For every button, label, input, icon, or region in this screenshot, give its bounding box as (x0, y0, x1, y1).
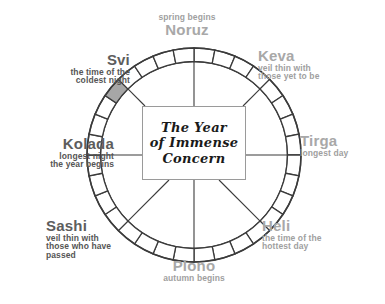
ring-cell (194, 48, 215, 63)
marker-sashi: Sashi veil thin with those who have pass… (46, 218, 156, 260)
spoke-line (243, 89, 260, 106)
marker-sashi-name: Sashi (46, 218, 156, 234)
marker-tirga: Tirga longest day (300, 133, 382, 157)
marker-kolada: Kolada longest night the year begins (6, 136, 114, 169)
spoke-line (219, 180, 260, 221)
marker-svi-sub: coldest night (20, 76, 130, 85)
marker-svi-name: Svi (20, 52, 130, 68)
marker-heli-name: Heli (262, 218, 374, 234)
marker-keva: Keva veil thin with those yet to be (258, 48, 378, 81)
year-wheel-diagram: spring begins Noruz Svi the time of the … (0, 0, 385, 304)
marker-tirga-name: Tirga (300, 133, 382, 149)
marker-plono: Plono autumn begins (130, 258, 258, 282)
marker-noruz: spring begins Noruz (128, 13, 246, 37)
ring-cell (286, 134, 301, 155)
marker-kolada-sub: the year begins (6, 160, 114, 169)
ring-cell (173, 48, 194, 63)
title-line-2: of Immense (150, 135, 239, 150)
spoke-line (128, 89, 145, 106)
marker-heli-sub: hottest day (262, 242, 374, 251)
marker-svi: Svi the time of the coldest night (20, 52, 130, 85)
marker-kolada-name: Kolada (6, 136, 114, 152)
marker-keva-sub: those yet to be (258, 72, 378, 81)
marker-heli: Heli the time of the hottest day (262, 218, 374, 251)
ring-cell (286, 155, 301, 176)
marker-keva-name: Keva (258, 48, 378, 64)
title-line-3: Concern (162, 151, 225, 166)
title-line-1: The Year (161, 120, 227, 135)
marker-plono-name: Plono (130, 258, 258, 274)
marker-noruz-name: Noruz (128, 22, 246, 38)
marker-plono-desc: autumn begins (130, 274, 258, 283)
marker-tirga-desc: longest day (300, 149, 382, 158)
spoke-line (128, 180, 169, 221)
center-title-box: The Year of Immense Concern (142, 106, 246, 180)
